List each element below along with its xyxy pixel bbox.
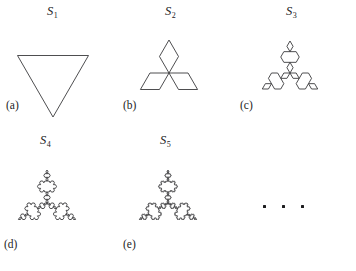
ellipsis-dot: [282, 205, 285, 208]
panel-s2: S2(b): [115, 0, 230, 130]
part-label-s1: (a): [6, 99, 19, 111]
curve-title-letter: S: [286, 4, 292, 18]
koch-path-s4: [18, 170, 75, 220]
curve-title-s5: S5: [160, 133, 170, 148]
curve-title-subscript: 1: [54, 11, 58, 20]
part-label-s4: (d): [4, 238, 17, 250]
panel-s4: S4(d): [0, 130, 115, 271]
koch-snowflake-figure: S1(a)S2(b)S3(c)S4(d)S5(e): [0, 0, 356, 271]
curve-title-letter: S: [165, 4, 171, 18]
curve-title-s4: S4: [40, 133, 50, 148]
koch-path-s5: [139, 170, 196, 220]
panel-s1: S1(a): [0, 0, 115, 130]
ellipsis-indicator: [263, 205, 304, 208]
curve-title-s2: S2: [165, 4, 175, 19]
panel-s5: S5(e): [115, 130, 230, 271]
koch-path-s2: [140, 40, 197, 90]
panel-s3: S3(c): [230, 0, 356, 130]
ellipsis-dot: [301, 205, 304, 208]
curve-title-s3: S3: [286, 4, 296, 19]
part-label-s5: (e): [123, 238, 136, 250]
part-label-s3: (c): [240, 99, 253, 111]
part-label-s2: (b): [123, 99, 136, 111]
koch-path-s1: [17, 56, 88, 118]
curve-title-letter: S: [40, 133, 46, 147]
curve-title-subscript: 3: [293, 11, 297, 20]
koch-path-s3: [262, 41, 317, 89]
curve-title-subscript: 5: [167, 140, 171, 149]
curve-title-subscript: 4: [47, 140, 51, 149]
ellipsis-dot: [263, 205, 266, 208]
curve-title-letter: S: [47, 4, 53, 18]
curve-title-letter: S: [160, 133, 166, 147]
curve-title-subscript: 2: [172, 11, 176, 20]
curve-title-s1: S1: [47, 4, 57, 19]
